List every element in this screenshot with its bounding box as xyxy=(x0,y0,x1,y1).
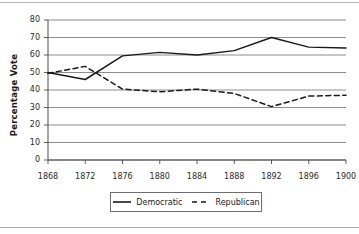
figure: Percentage Vote 01020304050607080 186818… xyxy=(0,0,359,234)
legend-label-republican: Republican xyxy=(215,198,259,207)
y-tick-label: 80 xyxy=(18,15,40,24)
y-tick-label: 70 xyxy=(18,33,40,42)
y-tick-label: 40 xyxy=(18,85,40,94)
legend-item-democratic: Democratic xyxy=(112,198,182,207)
y-axis-title: Percentage Vote xyxy=(9,45,19,145)
gridlines xyxy=(48,20,346,160)
x-tick-label: 1872 xyxy=(70,172,100,181)
y-tick-label: 30 xyxy=(18,103,40,112)
series-line-democratic xyxy=(48,38,346,80)
legend: Democratic Republican xyxy=(110,192,262,212)
x-tick-marks xyxy=(48,160,346,164)
y-tick-label: 10 xyxy=(18,138,40,147)
x-tick-label: 1900 xyxy=(331,172,359,181)
x-tick-label: 1888 xyxy=(219,172,249,181)
y-tick-marks xyxy=(44,20,48,160)
legend-label-democratic: Democratic xyxy=(136,198,182,207)
x-tick-label: 1896 xyxy=(294,172,324,181)
legend-swatch-dashed-icon xyxy=(191,198,211,206)
legend-item-republican: Republican xyxy=(191,198,259,207)
y-tick-label: 60 xyxy=(18,50,40,59)
legend-swatch-solid-icon xyxy=(112,198,132,206)
y-tick-label: 20 xyxy=(18,120,40,129)
x-tick-label: 1868 xyxy=(33,172,63,181)
x-tick-label: 1884 xyxy=(182,172,212,181)
x-tick-label: 1892 xyxy=(257,172,287,181)
y-tick-label: 50 xyxy=(18,68,40,77)
x-tick-label: 1876 xyxy=(108,172,138,181)
y-tick-label: 0 xyxy=(18,155,40,164)
x-tick-label: 1880 xyxy=(145,172,175,181)
line-chart: Percentage Vote 01020304050607080 186818… xyxy=(0,0,359,234)
